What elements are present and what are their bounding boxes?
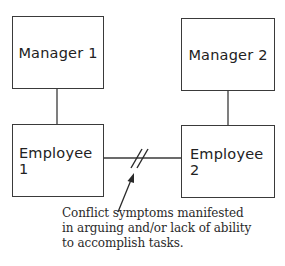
manager-1-box: Manager 1 bbox=[12, 16, 104, 89]
annotation-line-3: to accomplish tasks. bbox=[62, 236, 262, 251]
employee-2-box: Employee 2 bbox=[181, 125, 275, 198]
manager-2-box: Manager 2 bbox=[181, 18, 275, 91]
manager-2-label: Manager 2 bbox=[188, 47, 267, 63]
employee-2-label: Employee 2 bbox=[190, 146, 274, 178]
conflict-annotation: Conflict symptoms manifested in arguing … bbox=[62, 206, 262, 251]
employee-1-label: Employee 1 bbox=[19, 145, 103, 177]
annotation-line-2: in arguing and/or lack of ability bbox=[62, 221, 262, 236]
annotation-line-1: Conflict symptoms manifested bbox=[62, 206, 262, 221]
manager-1-label: Manager 1 bbox=[18, 45, 97, 61]
employee-1-box: Employee 1 bbox=[12, 124, 104, 197]
